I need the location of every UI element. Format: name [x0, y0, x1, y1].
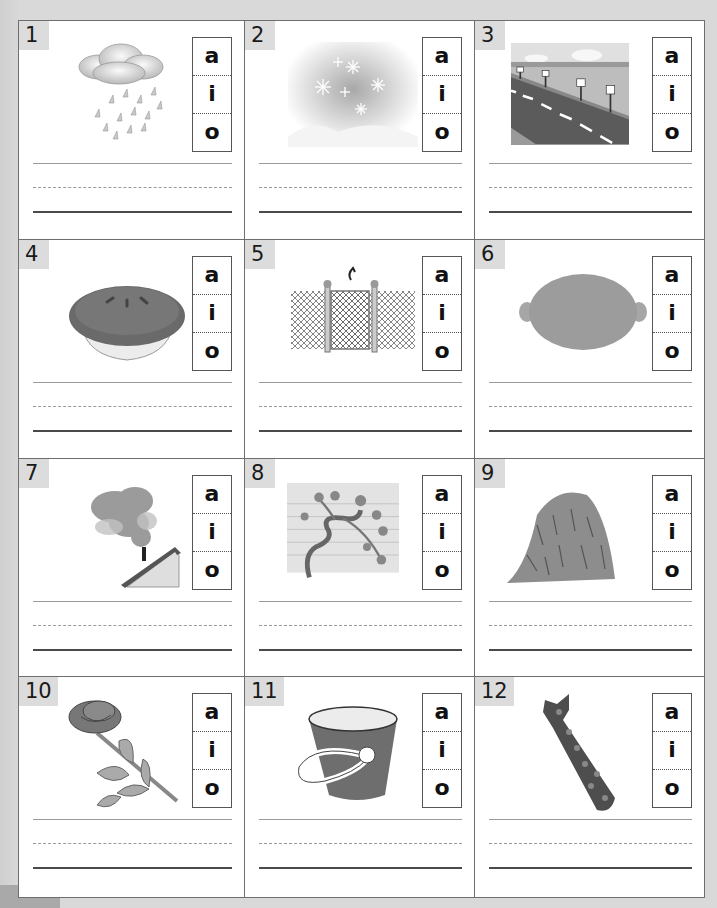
writing-line-mid[interactable] [33, 406, 232, 407]
writing-line-base[interactable] [33, 867, 232, 869]
writing-line-top[interactable] [33, 382, 232, 383]
vowel-option-o[interactable]: o [653, 333, 691, 370]
writing-line-base[interactable] [259, 430, 462, 432]
vowel-option-a[interactable]: a [423, 38, 461, 76]
vowel-option-a[interactable]: a [193, 38, 231, 76]
vowel-option-a[interactable]: a [193, 694, 231, 732]
vowel-option-a[interactable]: a [653, 257, 691, 295]
exercise-cell-10: 10 a i o [19, 677, 245, 897]
writing-line-mid[interactable] [259, 843, 462, 844]
vowel-choice-box: a i o [652, 37, 692, 152]
vowel-option-a[interactable]: a [653, 38, 691, 76]
writing-line-base[interactable] [489, 211, 692, 213]
writing-line-top[interactable] [489, 601, 692, 602]
vowel-option-i[interactable]: i [193, 295, 231, 333]
writing-line-top[interactable] [259, 601, 462, 602]
tie-icon [505, 685, 645, 815]
vowel-option-i[interactable]: i [653, 295, 691, 333]
vowel-option-o[interactable]: o [423, 333, 461, 370]
rose-icon [57, 693, 197, 813]
writing-line-mid[interactable] [489, 625, 692, 626]
vowel-option-o[interactable]: o [653, 770, 691, 807]
writing-line-mid[interactable] [259, 625, 462, 626]
vowel-choice-box: a i o [192, 475, 232, 590]
vowel-option-i[interactable]: i [423, 295, 461, 333]
writing-line-base[interactable] [489, 649, 692, 651]
writing-line-mid[interactable] [33, 625, 232, 626]
smoke-icon [57, 475, 197, 595]
vowel-option-i[interactable]: i [653, 514, 691, 552]
vowel-option-i[interactable]: i [193, 514, 231, 552]
vowel-choice-box: a i o [192, 256, 232, 371]
writing-line-mid[interactable] [489, 843, 692, 844]
exercise-cell-6: 6 a i o [475, 240, 704, 459]
vowel-choice-box: a i o [422, 256, 462, 371]
vowel-option-a[interactable]: a [423, 694, 461, 732]
item-number: 4 [19, 240, 49, 269]
vowel-option-a[interactable]: a [423, 257, 461, 295]
vowel-option-o[interactable]: o [193, 770, 231, 807]
item-number: 5 [245, 240, 275, 269]
writing-line-base[interactable] [259, 867, 462, 869]
vine-icon [287, 473, 399, 589]
writing-line-base[interactable] [33, 430, 232, 432]
page-margin [0, 0, 18, 908]
writing-line-base[interactable] [33, 649, 232, 651]
snow-icon [283, 37, 423, 157]
vowel-option-a[interactable]: a [193, 257, 231, 295]
item-number: 8 [245, 459, 275, 488]
writing-line-mid[interactable] [259, 187, 462, 188]
vowel-option-i[interactable]: i [193, 76, 231, 114]
writing-line-top[interactable] [489, 819, 692, 820]
writing-line-base[interactable] [33, 211, 232, 213]
writing-line-mid[interactable] [489, 406, 692, 407]
exercise-cell-2: 2 a i o [245, 21, 475, 240]
lemon-icon [513, 256, 653, 376]
item-number: 2 [245, 21, 275, 50]
writing-line-base[interactable] [259, 649, 462, 651]
vowel-option-o[interactable]: o [653, 552, 691, 589]
vowel-option-i[interactable]: i [423, 514, 461, 552]
exercise-cell-11: 11 a i o [245, 677, 475, 897]
writing-line-mid[interactable] [33, 187, 232, 188]
vowel-option-i[interactable]: i [193, 732, 231, 770]
vowel-option-i[interactable]: i [423, 76, 461, 114]
writing-line-top[interactable] [489, 382, 692, 383]
vowel-option-a[interactable]: a [193, 476, 231, 514]
exercise-cell-3: 3 a i o [475, 21, 704, 240]
writing-line-top[interactable] [489, 163, 692, 164]
vowel-option-o[interactable]: o [193, 333, 231, 370]
gate-icon [283, 256, 423, 376]
writing-line-top[interactable] [259, 819, 462, 820]
vowel-choice-box: a i o [422, 37, 462, 152]
vowel-option-o[interactable]: o [193, 552, 231, 589]
rain-icon [57, 37, 197, 157]
writing-line-mid[interactable] [489, 187, 692, 188]
writing-line-base[interactable] [489, 430, 692, 432]
writing-line-mid[interactable] [33, 843, 232, 844]
item-number: 7 [19, 459, 49, 488]
vowel-option-o[interactable]: o [193, 114, 231, 151]
writing-line-top[interactable] [259, 382, 462, 383]
writing-line-base[interactable] [259, 211, 462, 213]
exercise-cell-4: 4 a i o [19, 240, 245, 459]
writing-line-top[interactable] [33, 163, 232, 164]
vowel-option-o[interactable]: o [423, 770, 461, 807]
vowel-option-i[interactable]: i [423, 732, 461, 770]
vowel-option-a[interactable]: a [653, 476, 691, 514]
vowel-option-a[interactable]: a [653, 694, 691, 732]
item-number: 1 [19, 21, 49, 50]
vowel-option-o[interactable]: o [423, 114, 461, 151]
vowel-option-o[interactable]: o [653, 114, 691, 151]
writing-line-base[interactable] [489, 867, 692, 869]
writing-line-top[interactable] [259, 163, 462, 164]
writing-line-top[interactable] [33, 601, 232, 602]
writing-line-mid[interactable] [259, 406, 462, 407]
vowel-option-i[interactable]: i [653, 76, 691, 114]
vowel-option-i[interactable]: i [653, 732, 691, 770]
worksheet-grid: 1 a i o 2 [18, 20, 705, 898]
vowel-choice-box: a i o [652, 693, 692, 808]
writing-line-top[interactable] [33, 819, 232, 820]
vowel-option-o[interactable]: o [423, 552, 461, 589]
vowel-option-a[interactable]: a [423, 476, 461, 514]
